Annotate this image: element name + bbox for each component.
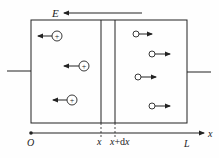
field-arrow: E [51,7,142,19]
positive-ion: + [53,95,77,105]
slice-left-label: x [96,136,102,147]
negative-carrier [149,103,170,109]
negative-carrier-icon [149,103,155,109]
negative-carrier [133,31,152,37]
negative-carrier-icon [135,74,141,80]
svg-text:+: + [55,32,60,41]
svg-text:+: + [82,62,87,71]
positive-ion: + [38,31,62,41]
end-label: L [183,138,190,149]
negative-carrier [135,74,156,80]
field-label: E [51,7,59,19]
x-axis: x O L x x+dx [27,128,213,149]
positive-ion: + [64,61,89,71]
negative-carrier-icon [149,51,155,57]
svg-text:+: + [70,96,75,105]
negative-carrier-icon [133,31,139,37]
conductor-diagram: E + + + x [0,0,219,158]
negative-carrier [149,51,170,57]
axis-label: x [207,128,213,139]
origin-label: O [27,137,34,148]
slice-right-label: x+dx [109,136,130,147]
